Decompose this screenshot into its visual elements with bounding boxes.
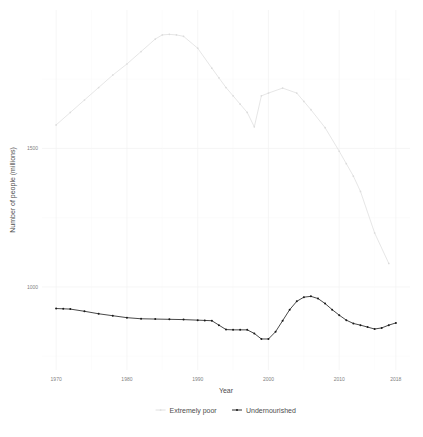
data-point [55,124,57,126]
data-point [84,99,86,101]
data-point [225,87,227,89]
data-point [381,327,383,329]
data-point [310,109,312,111]
data-point [260,338,262,340]
data-point [324,303,326,305]
data-point [268,92,270,94]
data-point [253,126,255,128]
data-point [352,322,354,324]
data-point [112,74,114,76]
data-point [169,34,171,36]
data-point [395,322,397,324]
line-chart: 197019801990200020102018 10001500 Year N… [0,0,423,437]
data-point [197,319,199,321]
data-point [197,47,199,49]
x-axis-label: Year [219,387,234,394]
data-point [367,326,369,328]
data-point [126,317,128,319]
x-tick-label: 2018 [390,376,401,382]
data-point [154,38,156,40]
y-tick-label: 1000 [27,284,38,290]
data-point [388,263,390,265]
y-axis-label: Number of people (millions) [9,147,17,233]
data-point [239,329,241,331]
legend-label: Extremely poor [170,407,218,415]
data-point [296,92,298,94]
data-point [218,324,220,326]
data-point [261,95,263,97]
x-tick-label: 2010 [334,376,345,382]
data-point [282,320,284,322]
data-point [161,34,163,36]
data-point [211,67,213,69]
data-point [112,315,114,317]
legend-label: Undernourished [246,407,296,414]
data-point [374,328,376,330]
data-point [374,232,376,234]
data-point [55,308,57,310]
data-point [176,34,178,36]
data-point [168,318,170,320]
plot-panel [42,10,410,370]
data-point [345,319,347,321]
data-point [331,309,333,311]
data-point [246,329,248,331]
data-point [338,314,340,316]
data-point [204,319,206,321]
data-point [62,308,64,310]
data-point [218,77,220,79]
data-point [183,319,185,321]
x-tick-label: 1970 [51,376,62,382]
x-tick-label: 1980 [121,376,132,382]
data-point [232,95,234,97]
data-point [296,300,298,302]
data-point [140,51,142,53]
data-point [360,191,362,193]
data-point [338,150,340,152]
data-point [388,324,390,326]
data-point [183,35,185,37]
data-point [267,338,269,340]
data-point [239,103,241,105]
data-point [310,295,312,297]
data-point [317,298,319,300]
data-point [345,163,347,165]
data-point [69,308,71,310]
data-point [303,101,305,103]
data-point [211,320,213,322]
data-point [83,310,85,312]
data-point [324,127,326,129]
data-point [246,112,248,114]
data-point [98,313,100,315]
x-tick-label: 2000 [263,376,274,382]
data-point [253,332,255,334]
x-tick-label: 1990 [192,376,203,382]
data-point [282,87,284,89]
data-point [69,112,71,114]
data-point [359,324,361,326]
data-point [289,309,291,311]
data-point [353,175,355,177]
legend-point-key [160,409,162,411]
y-tick-label: 1500 [27,145,38,151]
chart-container: 197019801990200020102018 10001500 Year N… [0,0,423,437]
data-point [140,318,142,320]
data-point [232,329,234,331]
data-point [126,63,128,65]
data-point [98,87,100,89]
data-point [303,296,305,298]
data-point [154,318,156,320]
data-point [275,331,277,333]
legend-point-key [236,409,238,411]
data-point [225,329,227,331]
